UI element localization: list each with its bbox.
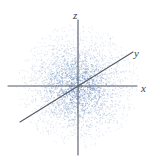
y-axis-label: y (133, 47, 139, 59)
z-axis-label: z (72, 9, 78, 21)
x-axis-label: x (140, 82, 146, 94)
scatter-figure: z x y (0, 0, 160, 160)
figure-canvas: z x y (0, 0, 160, 160)
